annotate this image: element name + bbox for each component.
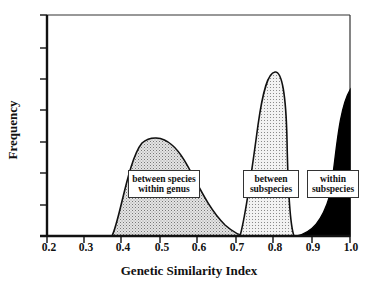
curve-between-subspecies [240,72,294,236]
label-line: between [244,174,298,184]
x-tick-label: 0.2 [34,241,64,253]
curve-within-subspecies [297,90,350,236]
label-between-subspecies: between subspecies [243,170,299,198]
label-line: subspecies [244,184,298,194]
x-tick-label: 0.3 [71,241,101,253]
y-axis [40,15,47,237]
label-line: within genus [129,184,199,194]
label-within-subspecies: within subspecies [307,170,359,198]
x-tick-label: 0.5 [147,241,177,253]
label-line: subspecies [308,184,358,194]
x-tick-label: 0.8 [260,241,290,253]
x-tick-label: 0.9 [298,241,328,253]
y-axis-title: Frequency [5,85,21,175]
x-tick-label: 0.7 [222,241,252,253]
x-tick-label: 1.0 [336,241,366,253]
x-axis-title: Genetic Similarity Index [0,263,378,279]
label-line: between species [129,174,199,184]
label-between-species: between species within genus [128,170,200,198]
x-tick-label: 0.6 [184,241,214,253]
label-line: within [308,174,358,184]
x-tick-label: 0.4 [108,241,138,253]
